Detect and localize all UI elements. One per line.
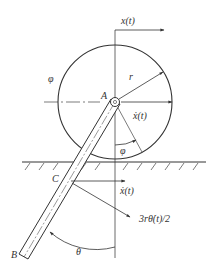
label-r: r <box>129 71 133 82</box>
rolling-disk-rod-diagram: x(t) φ r A ẋ(t) φ C ẋ(t) 3rθ̇(t)/2 B θ <box>0 0 224 274</box>
label-varphi: φ <box>120 145 126 156</box>
label-x-t: x(t) <box>120 15 136 27</box>
ground-hatching <box>25 163 198 170</box>
theta-arc <box>50 232 115 250</box>
label-theta: θ <box>76 246 81 257</box>
rod <box>19 99 120 259</box>
pin-a <box>111 98 120 107</box>
label-rod-velocity: 3rθ̇(t)/2 <box>138 213 170 225</box>
label-c: C <box>52 173 59 184</box>
label-a: A <box>100 90 108 101</box>
label-phi-upper: φ <box>48 73 54 84</box>
label-x-dot-lower: ẋ(t) <box>119 185 135 197</box>
radius-arrow <box>119 72 163 99</box>
label-b: B <box>11 249 17 260</box>
label-x-dot-upper: ẋ(t) <box>132 110 148 122</box>
